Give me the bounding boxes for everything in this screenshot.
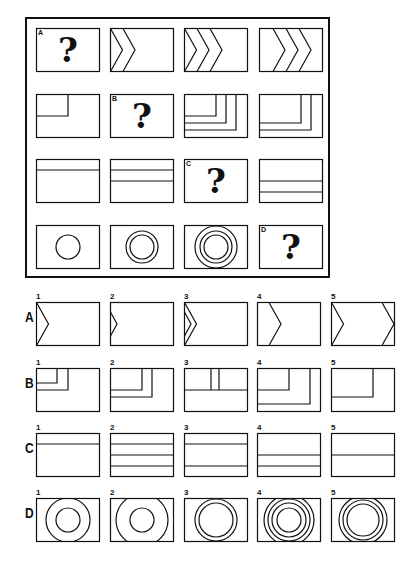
answer-option-c1[interactable] <box>36 433 100 477</box>
option-number: 2 <box>110 358 114 367</box>
pattern-icon <box>110 225 174 269</box>
puzzle-cell <box>110 225 174 269</box>
puzzle-cell <box>36 94 100 138</box>
pattern-icon <box>184 368 248 412</box>
option-number: 3 <box>184 358 188 367</box>
puzzle-cell <box>259 94 323 138</box>
pattern-icon <box>184 302 248 346</box>
option-number: 3 <box>184 292 188 301</box>
option-number: 1 <box>36 358 40 367</box>
pattern-icon <box>331 433 395 477</box>
answer-option-c5[interactable] <box>331 433 395 477</box>
puzzle-missing-cell-d: D? <box>259 225 323 269</box>
pattern-icon <box>110 433 174 477</box>
answer-option-a4[interactable] <box>257 302 321 346</box>
answer-option-d2[interactable] <box>110 498 174 542</box>
pattern-icon <box>184 28 248 72</box>
puzzle-cell <box>184 94 248 138</box>
puzzle-missing-cell-c: C? <box>184 159 248 203</box>
answer-option-b4[interactable] <box>257 368 321 412</box>
pattern-icon <box>36 94 100 138</box>
pattern-icon <box>110 368 174 412</box>
answer-option-a5[interactable] <box>331 302 395 346</box>
pattern-icon <box>184 225 248 269</box>
pattern-icon <box>331 498 395 542</box>
option-number: 1 <box>36 488 40 497</box>
pattern-icon <box>110 498 174 542</box>
pattern-icon <box>110 302 174 346</box>
pattern-icon <box>36 433 100 477</box>
option-number: 5 <box>331 488 335 497</box>
option-number: 4 <box>257 358 261 367</box>
answer-option-b3[interactable] <box>184 368 248 412</box>
option-number: 1 <box>36 292 40 301</box>
option-number: 2 <box>110 423 114 432</box>
pattern-icon <box>331 368 395 412</box>
option-number: 2 <box>110 488 114 497</box>
pattern-icon <box>259 28 323 72</box>
question-mark-icon: ? <box>110 97 174 135</box>
puzzle-missing-cell-b: B? <box>110 94 174 138</box>
puzzle-cell <box>36 159 100 203</box>
pattern-icon <box>184 498 248 542</box>
answer-row-label: A <box>25 308 34 325</box>
option-number: 4 <box>257 488 261 497</box>
answer-row-label: B <box>25 374 34 391</box>
answer-option-a2[interactable] <box>110 302 174 346</box>
puzzle-cell <box>184 225 248 269</box>
puzzle-cell <box>259 28 323 72</box>
option-number: 5 <box>331 358 335 367</box>
pattern-icon <box>36 498 100 542</box>
pattern-icon <box>184 94 248 138</box>
pattern-icon <box>257 498 321 542</box>
answer-option-d4[interactable] <box>257 498 321 542</box>
pattern-icon <box>257 368 321 412</box>
answer-option-b1[interactable] <box>36 368 100 412</box>
question-mark-icon: ? <box>184 162 248 200</box>
pattern-icon <box>331 302 395 346</box>
pattern-icon <box>259 94 323 138</box>
pattern-icon <box>36 159 100 203</box>
answer-option-a1[interactable] <box>36 302 100 346</box>
pattern-icon <box>36 225 100 269</box>
pattern-icon <box>257 302 321 346</box>
option-number: 5 <box>331 292 335 301</box>
pattern-icon <box>110 28 174 72</box>
answer-option-b2[interactable] <box>110 368 174 412</box>
question-mark-icon: ? <box>36 31 100 69</box>
option-number: 3 <box>184 488 188 497</box>
question-mark-icon: ? <box>259 228 323 266</box>
pattern-icon <box>36 302 100 346</box>
pattern-icon <box>36 368 100 412</box>
pattern-icon <box>110 159 174 203</box>
answer-option-b5[interactable] <box>331 368 395 412</box>
option-number: 1 <box>36 423 40 432</box>
answer-option-d3[interactable] <box>184 498 248 542</box>
answer-row-label: D <box>25 504 34 521</box>
answer-option-d5[interactable] <box>331 498 395 542</box>
option-number: 4 <box>257 423 261 432</box>
option-number: 3 <box>184 423 188 432</box>
answer-option-d1[interactable] <box>36 498 100 542</box>
answer-option-c3[interactable] <box>184 433 248 477</box>
puzzle-cell <box>110 28 174 72</box>
puzzle-cell <box>110 159 174 203</box>
pattern-icon <box>259 159 323 203</box>
answer-row-label: C <box>25 439 34 456</box>
puzzle-cell <box>184 28 248 72</box>
option-number: 2 <box>110 292 114 301</box>
pattern-icon <box>257 433 321 477</box>
puzzle-missing-cell-a: A? <box>36 28 100 72</box>
option-number: 4 <box>257 292 261 301</box>
pattern-icon <box>184 433 248 477</box>
answer-option-a3[interactable] <box>184 302 248 346</box>
option-number: 5 <box>331 423 335 432</box>
puzzle-cell <box>36 225 100 269</box>
puzzle-cell <box>259 159 323 203</box>
answer-option-c4[interactable] <box>257 433 321 477</box>
answer-option-c2[interactable] <box>110 433 174 477</box>
